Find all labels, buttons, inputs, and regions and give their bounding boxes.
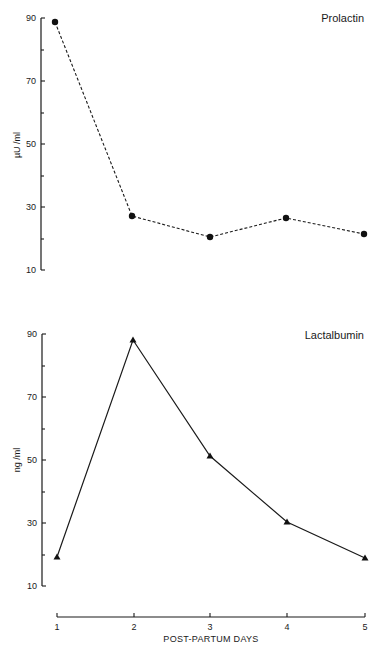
x-tick-label: 5 [362,622,367,632]
lactalbumin-markers [54,337,369,561]
panel-title-lactalbumin: Lactalbumin [305,329,364,341]
y-tick-label: 70 [26,76,36,86]
y-tick-label: 50 [26,139,36,149]
triangle-marker-icon [207,453,214,459]
x-tick-label: 1 [54,622,59,632]
y-tick-label: 90 [26,13,36,23]
panel-title-prolactin: Prolactin [321,12,364,24]
y-tick-label: 10 [27,581,37,591]
y-axis-label-top: µU /ml [12,132,22,158]
chart-figure: 90 70 50 30 10 µU /ml Prolactin [0,0,382,652]
y-tick-label: 70 [27,392,37,402]
x-tick-label: 3 [207,622,212,632]
prolactin-markers [52,19,367,240]
y-tick-label: 50 [27,455,37,465]
y-axis-label-bottom: ng /ml [12,448,22,473]
y-tick-label: 90 [27,329,37,339]
circle-marker-icon [52,19,58,25]
y-tick-label: 30 [26,202,36,212]
prolactin-line [55,22,364,237]
circle-marker-icon [361,231,367,237]
x-axis-label: POST-PARTUM DAYS [163,634,258,644]
triangle-marker-icon [54,554,61,560]
y-tick-label: 10 [26,265,36,275]
circle-marker-icon [207,234,213,240]
x-tick-label: 4 [284,622,289,632]
circle-marker-icon [283,215,289,221]
circle-marker-icon [129,213,135,219]
prolactin-panel: 90 70 50 30 10 µU /ml Prolactin [12,12,367,275]
triangle-marker-icon [130,337,137,343]
y-tick-label: 30 [27,518,37,528]
lactalbumin-line [57,340,365,558]
x-tick-label: 2 [131,622,136,632]
lactalbumin-panel: 90 70 50 30 10 ng /ml Lactalbumin 1 2 3 … [12,329,369,644]
